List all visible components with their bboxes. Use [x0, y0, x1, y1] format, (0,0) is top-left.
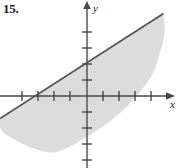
y-axis-arrow-icon — [83, 1, 91, 9]
shaded-solution-region — [0, 14, 165, 152]
coordinate-plot: y x — [0, 0, 178, 168]
figure-container: 15. — [0, 0, 178, 168]
x-axis-label: x — [169, 98, 175, 110]
y-axis-label: y — [92, 2, 98, 14]
